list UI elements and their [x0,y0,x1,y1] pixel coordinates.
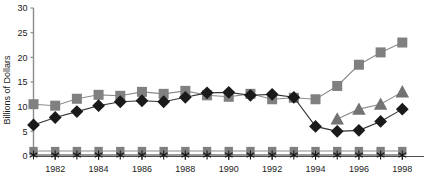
x-tick-label: 1994 [306,164,326,174]
marker-square [94,90,104,100]
x-tick-label: 1992 [262,164,282,174]
series-triangles [330,85,409,124]
y-tick-label: 20 [17,53,27,63]
x-tick-label: 1990 [219,164,239,174]
marker-square [72,94,82,104]
series-diamonds [27,86,409,138]
series-baseline-stars [30,151,406,160]
marker-diamond [374,115,387,128]
y-tick-label: 25 [17,28,27,38]
marker-square [397,38,407,48]
y-tick-label: 10 [17,102,27,112]
y-axis-ticks: 051015202530 [17,3,33,161]
marker-diamond [309,120,322,133]
y-axis-title-group: Billions of Dollars [2,55,12,125]
x-tick-label: 1984 [89,164,109,174]
chart-container: Billions of Dollars 051015202530 1982198… [0,0,426,194]
series-squares [29,38,408,111]
data-series-group [27,38,409,160]
line-chart: Billions of Dollars 051015202530 1982198… [0,0,426,194]
marker-triangle [374,97,388,109]
marker-triangle [396,85,410,97]
marker-square [29,99,39,109]
x-tick-label: 1988 [175,164,195,174]
marker-triangle [330,112,344,124]
x-tick-label: 1982 [45,164,65,174]
marker-diamond [27,119,40,132]
marker-diamond [396,103,409,116]
y-axis-title: Billions of Dollars [2,55,12,125]
y-tick-label: 0 [22,151,27,161]
marker-square [332,81,342,91]
series-line [34,43,403,106]
marker-square [354,60,364,70]
marker-diamond [353,124,366,137]
marker-diamond [70,105,83,118]
marker-diamond [331,125,344,138]
y-tick-label: 5 [22,127,27,137]
x-tick-label: 1998 [392,164,412,174]
marker-square [50,101,60,111]
marker-square [376,47,386,57]
marker-diamond [92,99,105,112]
y-tick-label: 30 [17,3,27,13]
series-line [34,92,403,131]
marker-diamond [49,111,62,124]
x-tick-label: 1996 [349,164,369,174]
x-tick-label: 1986 [132,164,152,174]
y-tick-label: 15 [17,77,27,87]
series-baseline-squares [29,147,406,155]
marker-square [311,94,321,104]
